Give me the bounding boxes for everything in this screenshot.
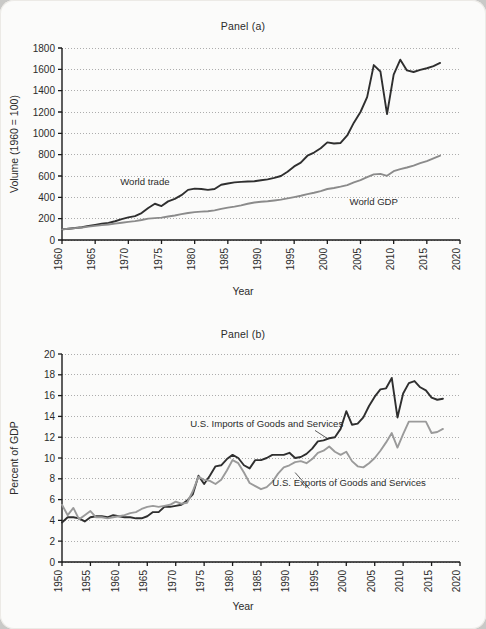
x-tick-label: 1975 [195,570,206,593]
series-annotation-label: U.S. Exports of Goods and Services [272,477,426,488]
x-tick-label: 1995 [309,570,320,593]
y-tick-label: 1600 [33,64,56,75]
y-tick-label: 0 [49,557,55,568]
y-axis-title: Percent of GDP [8,421,20,495]
y-tick-label: 4 [49,515,55,526]
x-tick-label: 1990 [280,570,291,593]
series-line [62,422,443,520]
series-line [62,378,443,523]
y-tick-label: 600 [38,171,55,182]
x-tick-label: 2020 [451,570,462,593]
y-tick-label: 16 [44,390,56,401]
y-tick-label: 2 [49,536,55,547]
y-axis-title: Volume (1960 = 100) [8,95,20,193]
x-tick-label: 1980 [224,570,235,593]
y-tick-label: 14 [44,411,56,422]
series-annotation-label: World GDP [350,196,398,207]
figure-page: Panel (a) 020040060080010001200140016001… [0,0,486,629]
x-tick-label: 1965 [86,248,97,271]
x-tick-label: 2005 [366,570,377,593]
x-tick-label: 1975 [153,248,164,271]
y-tick-label: 800 [38,149,55,160]
x-tick-label: 1990 [252,248,263,271]
x-tick-label: 2005 [352,248,363,271]
x-tick-label: 2015 [418,248,429,271]
x-tick-label: 1950 [53,570,64,593]
x-tick-label: 2020 [451,248,462,271]
x-tick-label: 1955 [81,570,92,593]
y-tick-label: 400 [38,192,55,203]
y-tick-label: 18 [44,369,56,380]
y-tick-label: 6 [49,494,55,505]
series-annotation-label: World trade [120,176,169,187]
x-tick-label: 2010 [394,570,405,593]
x-tick-label: 1985 [252,570,263,593]
panel-b-plot: 0246810121416182019501955196019651970197… [0,312,486,629]
x-tick-label: 1960 [110,570,121,593]
x-tick-label: 2015 [423,570,434,593]
x-tick-label: 2010 [385,248,396,271]
x-tick-label: 1980 [186,248,197,271]
y-tick-label: 8 [49,473,55,484]
y-tick-label: 20 [44,349,56,360]
x-tick-label: 1970 [167,570,178,593]
y-tick-label: 1000 [33,128,56,139]
y-tick-label: 200 [38,213,55,224]
panel-a-plot: 0200400600800100012001400160018001960196… [0,0,486,312]
y-tick-label: 1400 [33,85,56,96]
x-tick-label: 2000 [318,248,329,271]
x-tick-label: 1970 [119,248,130,271]
y-tick-label: 1800 [33,43,56,54]
y-tick-label: 12 [44,432,56,443]
x-tick-label: 1995 [285,248,296,271]
series-annotation-label: U.S. Imports of Goods and Services [190,418,343,429]
y-tick-label: 10 [44,453,56,464]
y-tick-label: 0 [49,235,55,246]
x-tick-label: 1960 [53,248,64,271]
x-tick-label: 2000 [337,570,348,593]
panel-a: Panel (a) 020040060080010001200140016001… [0,0,486,312]
y-tick-label: 1200 [33,107,56,118]
panel-b-xaxis-label: Year [0,600,486,612]
panel-b: Panel (b) 024681012141618201950195519601… [0,312,486,629]
x-tick-label: 1965 [138,570,149,593]
x-tick-label: 1985 [219,248,230,271]
panel-a-xaxis-label: Year [0,285,486,297]
